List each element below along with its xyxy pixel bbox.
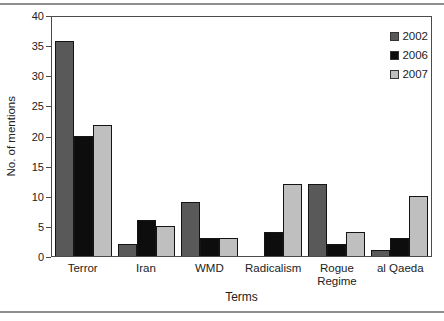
- y-tick-label-35: 35: [14, 40, 44, 52]
- bar-group-iran: [115, 17, 178, 256]
- x-axis-title: Terms: [51, 290, 432, 304]
- bar-al-qaeda-2006: [390, 238, 409, 256]
- legend-swatch-2007: [390, 70, 399, 79]
- x-category-label-radicalism: Radicalism: [241, 262, 305, 288]
- y-tick-label-30: 30: [14, 70, 44, 82]
- y-tick-mark-10: [46, 197, 51, 198]
- legend-item-2007: 2007: [390, 67, 428, 81]
- bar-groups: [52, 17, 431, 256]
- bar-iran-2007: [156, 226, 175, 256]
- bar-group-rogue-regime: [305, 17, 368, 256]
- bar-radicalism-2007: [283, 184, 302, 256]
- x-category-label-terror: Terror: [51, 262, 114, 288]
- x-category-label-iran: Iran: [114, 262, 177, 288]
- legend-swatch-2006: [390, 51, 399, 60]
- y-tick-label-40: 40: [14, 10, 44, 22]
- bar-group-wmd: [178, 17, 241, 256]
- bar-terror-2006: [74, 136, 93, 256]
- y-tick-mark-0: [46, 257, 51, 258]
- legend-label-2006: 2006: [402, 49, 428, 62]
- bar-rogue-regime-2007: [346, 232, 365, 256]
- top-rule: [0, 3, 444, 5]
- bar-al-qaeda-2002: [371, 250, 390, 256]
- bar-terror-2007: [93, 125, 112, 256]
- bar-iran-2006: [137, 220, 156, 256]
- y-tick-label-15: 15: [14, 161, 44, 173]
- plot-area: [51, 16, 432, 257]
- y-tick-label-25: 25: [14, 100, 44, 112]
- x-category-labels: TerrorIranWMDRadicalismRogue Regimeal Qa…: [51, 262, 432, 288]
- bar-al-qaeda-2007: [409, 196, 428, 256]
- bar-radicalism-2006: [264, 232, 283, 256]
- bar-wmd-2006: [200, 238, 219, 256]
- y-tick-mark-15: [46, 167, 51, 168]
- y-tick-label-5: 5: [14, 221, 44, 233]
- y-tick-label-10: 10: [14, 191, 44, 203]
- y-tick-mark-20: [46, 137, 51, 138]
- bar-wmd-2002: [181, 202, 200, 256]
- y-tick-mark-25: [46, 106, 51, 107]
- legend-item-2006: 2006: [390, 48, 428, 62]
- legend-label-2007: 2007: [402, 68, 428, 81]
- bar-group-radicalism: [242, 17, 305, 256]
- x-category-label-rogue-regime: Rogue Regime: [305, 262, 368, 288]
- y-tick-mark-40: [46, 16, 51, 17]
- y-tick-label-0: 0: [14, 251, 44, 263]
- x-category-label-al-qaeda: al Qaeda: [369, 262, 432, 288]
- bar-rogue-regime-2006: [327, 244, 346, 256]
- bottom-rule: [0, 311, 444, 313]
- y-tick-mark-30: [46, 76, 51, 77]
- legend: 200220062007: [390, 29, 428, 86]
- x-category-label-wmd: WMD: [178, 262, 241, 288]
- bar-wmd-2007: [219, 238, 238, 256]
- bar-iran-2002: [118, 244, 137, 256]
- y-tick-mark-5: [46, 227, 51, 228]
- bar-group-terror: [52, 17, 115, 256]
- y-tick-mark-35: [46, 46, 51, 47]
- bar-rogue-regime-2002: [308, 184, 327, 256]
- legend-label-2002: 2002: [402, 30, 428, 43]
- bar-terror-2002: [55, 41, 74, 256]
- legend-swatch-2002: [390, 32, 399, 41]
- legend-item-2002: 2002: [390, 29, 428, 43]
- y-tick-label-20: 20: [14, 131, 44, 143]
